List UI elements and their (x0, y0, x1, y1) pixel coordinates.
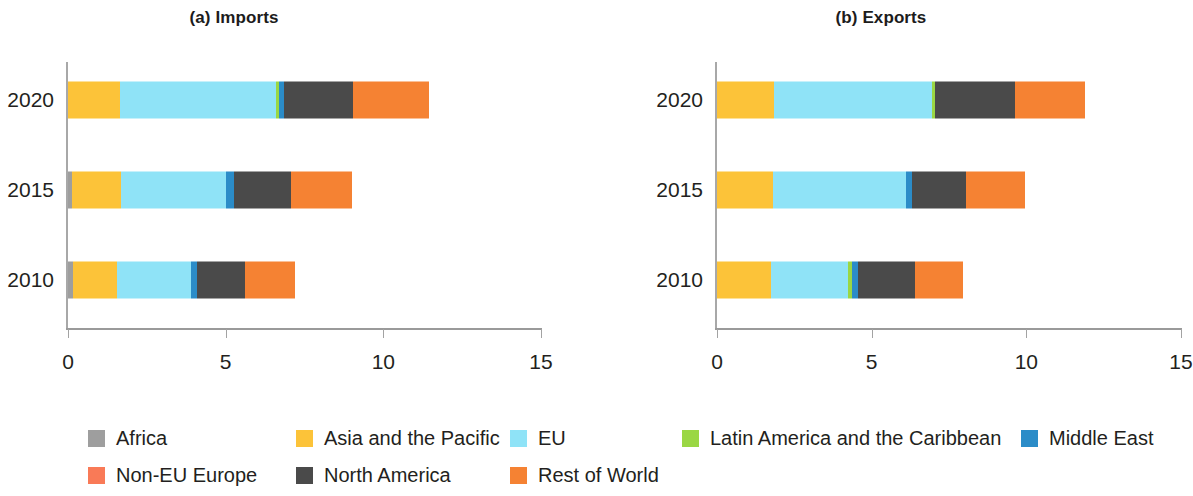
legend-item-asia-and-the-pacific[interactable]: Asia and the Pacific (296, 428, 500, 448)
legend-swatch-icon (682, 430, 699, 447)
bar-segment-imports-2015-middle-east (226, 172, 234, 209)
plot-area-imports: 051015202020152010 (68, 62, 541, 330)
bar-segment-imports-2020-asia-and-the-pacific (68, 82, 120, 119)
legend-label: North America (324, 465, 451, 485)
legend-label: Asia and the Pacific (324, 428, 500, 448)
legend-item-rest-of-world[interactable]: Rest of World (510, 465, 659, 485)
bar-segment-imports-2015-north-america (234, 172, 291, 209)
legend-label: Latin America and the Caribbean (710, 428, 1001, 448)
x-tick-label-imports-1: 5 (220, 350, 232, 374)
y-axis-label-imports-2015: 2015 (7, 178, 54, 202)
legend-swatch-icon (510, 430, 527, 447)
bar-imports-2010 (68, 262, 295, 299)
chart-legend: AfricaAsia and the PacificEULatin Americ… (0, 420, 1192, 496)
x-tick-exports-0 (717, 329, 718, 338)
x-tick-label-exports-3: 15 (1169, 350, 1192, 374)
panel-exports-title: (b) Exports (666, 8, 1096, 28)
bar-segment-imports-2015-rest-of-world (291, 172, 352, 209)
bar-segment-exports-2015-asia-and-the-pacific (717, 172, 773, 209)
y-axis-label-exports-2015: 2015 (656, 178, 703, 202)
y-axis-label-imports-2020: 2020 (7, 88, 54, 112)
legend-label: Rest of World (538, 465, 659, 485)
legend-swatch-icon (1021, 430, 1038, 447)
bar-segment-exports-2015-north-america (912, 172, 966, 209)
bar-segment-exports-2020-rest-of-world (1015, 82, 1085, 119)
plot-area-exports: 051015202020152010 (717, 62, 1181, 330)
x-axis-line-exports (715, 328, 1182, 330)
panel-imports-title: (a) Imports (34, 8, 434, 28)
y-axis-label-exports-2020: 2020 (656, 88, 703, 112)
legend-item-middle-east[interactable]: Middle East (1021, 428, 1154, 448)
bar-segment-imports-2015-asia-and-the-pacific (72, 172, 121, 209)
bar-segment-exports-2020-eu (774, 82, 932, 119)
x-tick-label-exports-0: 0 (711, 350, 723, 374)
x-tick-exports-2 (1026, 329, 1027, 338)
bar-exports-2020 (717, 82, 1085, 119)
x-tick-label-imports-2: 10 (372, 350, 395, 374)
bar-segment-exports-2015-eu (773, 172, 906, 209)
bar-exports-2010 (717, 262, 963, 299)
x-tick-imports-2 (383, 329, 384, 338)
x-tick-label-imports-0: 0 (62, 350, 74, 374)
legend-item-non-eu-europe[interactable]: Non-EU Europe (88, 465, 257, 485)
bar-segment-imports-2010-north-america (197, 262, 244, 299)
legend-label: Middle East (1049, 428, 1154, 448)
legend-swatch-icon (296, 430, 313, 447)
bar-segment-imports-2010-asia-and-the-pacific (73, 262, 117, 299)
bar-segment-exports-2020-asia-and-the-pacific (717, 82, 774, 119)
bar-segment-imports-2010-eu (117, 262, 191, 299)
x-tick-imports-3 (541, 329, 542, 338)
legend-swatch-icon (88, 430, 105, 447)
y-axis-label-exports-2010: 2010 (656, 268, 703, 292)
legend-label: EU (538, 428, 566, 448)
legend-label: Non-EU Europe (116, 465, 257, 485)
panel-exports: (b) Exports 051015202020152010 (596, 0, 1192, 410)
bar-segment-imports-2010-rest-of-world (245, 262, 295, 299)
panel-imports: (a) Imports 051015202020152010 (0, 0, 596, 410)
x-axis-line-imports (66, 328, 542, 330)
bar-segment-exports-2020-north-america (935, 82, 1015, 119)
bar-segment-imports-2020-rest-of-world (353, 82, 429, 119)
x-tick-label-exports-2: 10 (1015, 350, 1038, 374)
bar-segment-exports-2010-rest-of-world (915, 262, 963, 299)
x-tick-exports-3 (1181, 329, 1182, 338)
bar-segment-exports-2010-north-america (858, 262, 915, 299)
bar-segment-exports-2010-asia-and-the-pacific (717, 262, 771, 299)
legend-label: Africa (116, 428, 167, 448)
bar-segment-exports-2015-rest-of-world (966, 172, 1025, 209)
bar-imports-2020 (68, 82, 429, 119)
bar-exports-2015 (717, 172, 1025, 209)
bar-segment-imports-2020-eu (120, 82, 276, 119)
bar-segment-imports-2015-eu (121, 172, 227, 209)
x-tick-imports-0 (68, 329, 69, 338)
x-tick-label-exports-1: 5 (866, 350, 878, 374)
x-tick-exports-1 (872, 329, 873, 338)
legend-swatch-icon (296, 467, 313, 484)
legend-item-north-america[interactable]: North America (296, 465, 451, 485)
legend-item-africa[interactable]: Africa (88, 428, 167, 448)
legend-item-eu[interactable]: EU (510, 428, 566, 448)
legend-item-latin-america-and-the-caribbean[interactable]: Latin America and the Caribbean (682, 428, 1001, 448)
y-axis-label-imports-2010: 2010 (7, 268, 54, 292)
bar-segment-imports-2020-north-america (284, 82, 353, 119)
bar-segment-exports-2010-eu (771, 262, 848, 299)
x-tick-label-imports-3: 15 (529, 350, 552, 374)
x-tick-imports-1 (226, 329, 227, 338)
legend-swatch-icon (88, 467, 105, 484)
legend-swatch-icon (510, 467, 527, 484)
bar-imports-2015 (68, 172, 352, 209)
